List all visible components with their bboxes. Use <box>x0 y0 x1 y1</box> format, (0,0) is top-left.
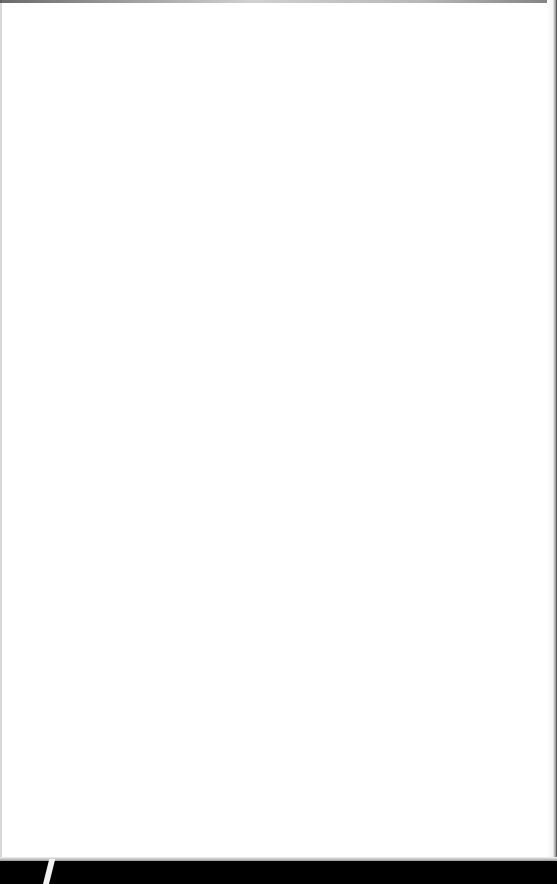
blank-paper-page <box>0 0 557 861</box>
photo-scene <box>0 0 557 884</box>
page-content-area <box>40 40 517 821</box>
dark-background-strip <box>0 861 557 884</box>
page-right-edge <box>547 0 557 861</box>
